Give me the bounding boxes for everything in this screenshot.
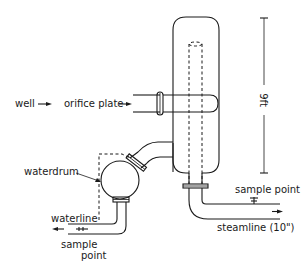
inner-dashed-tube [189, 42, 202, 184]
vessel-bottom-flange [183, 173, 208, 188]
water-sample-label-line1: sample [61, 239, 97, 250]
well-label: well [15, 98, 35, 109]
waterdrum-leader [76, 173, 101, 182]
waterdrum-label: waterdrum [24, 166, 79, 177]
waterline-arrow [52, 227, 64, 231]
orifice-plate-label: orifice plate [64, 98, 123, 109]
well-arrow [38, 102, 52, 106]
height-dimension: 9ft [258, 18, 269, 173]
level-gauge-dashed [99, 154, 130, 220]
steam-sample-point-valve [250, 197, 258, 204]
water-sample-point-valve [76, 227, 88, 231]
waterdrum [101, 161, 139, 199]
height-dimension-label: 9ft [258, 93, 269, 107]
inlet-pipe [133, 92, 218, 115]
steamline-label: steamline (10") [217, 222, 295, 233]
separator-vessel [173, 17, 219, 184]
water-sample-label-line2: point [81, 250, 107, 261]
waterline-label: waterline [51, 213, 98, 224]
steam-sample-label: sample point [235, 184, 300, 195]
separator-diagram: 9ft well orifice plate waterdrum waterli… [0, 0, 301, 266]
